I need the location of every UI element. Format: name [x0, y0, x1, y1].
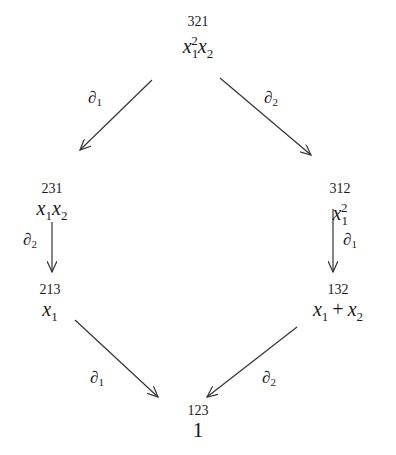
permutation-label: 312: [330, 181, 351, 197]
node-132: 132 x1+x2: [313, 282, 363, 328]
polynomial-label: x1+x2: [313, 298, 363, 328]
permutation-label: 321: [183, 14, 213, 30]
polynomial-label: x1x2: [37, 197, 68, 227]
edge-label-312-132: ∂1: [343, 230, 357, 250]
node-213: 213 x1: [40, 282, 61, 328]
node-231: 231 x1x2: [37, 181, 68, 227]
divided-difference-diagram: 321 x12x2 231 x1x2 312 x12 213 x1 132 x1…: [0, 0, 396, 455]
polynomial-label: 1: [188, 419, 209, 441]
edge-213-123-arrow: [75, 320, 158, 397]
node-123: 123 1: [188, 403, 209, 441]
permutation-label: 231: [37, 181, 68, 197]
edge-label-132-123: ∂2: [262, 368, 276, 388]
permutation-label: 213: [40, 282, 61, 298]
polynomial-label: x12x2: [183, 30, 213, 65]
node-321: 321 x12x2: [183, 14, 213, 65]
polynomial-label: x12: [330, 197, 351, 232]
edge-label-321-312: ∂2: [264, 88, 278, 108]
edge-label-231-213: ∂2: [23, 230, 37, 250]
permutation-label: 132: [313, 282, 363, 298]
node-312: 312 x12: [330, 181, 351, 232]
edge-132-123-arrow: [207, 327, 297, 397]
edge-label-321-231: ∂1: [88, 88, 102, 108]
polynomial-label: x1: [40, 298, 61, 328]
edge-label-213-123: ∂1: [90, 368, 104, 388]
